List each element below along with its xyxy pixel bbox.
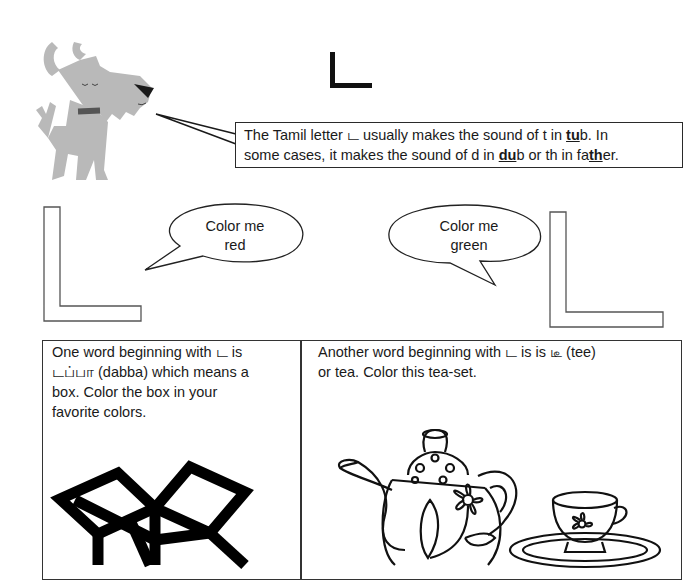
outline-letter-red [40, 205, 140, 325]
bubble-text-green: Color me green [414, 217, 524, 255]
outline-letter-green [548, 208, 668, 333]
tea-set-image [300, 420, 698, 565]
heading-letter [330, 52, 372, 88]
intro-line-2: some cases, it makes the sound of d in d… [244, 145, 682, 165]
intro-text-box: The Tamil letter ட usually makes the sou… [235, 122, 683, 168]
open-box-image [30, 420, 310, 565]
intro-line-1: The Tamil letter ட usually makes the sou… [244, 125, 682, 145]
cell-box-text: One word beginning with ட is டப்பா (dabb… [52, 342, 297, 422]
cell-tea-text: Another word beginning with ட is is டீ (… [318, 342, 688, 382]
bubble-text-red: Color me red [180, 217, 290, 255]
